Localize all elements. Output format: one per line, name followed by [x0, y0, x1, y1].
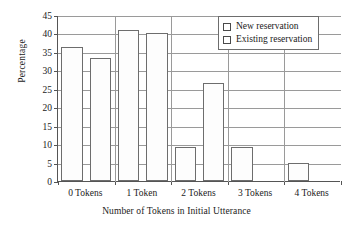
legend-item: New reservation — [223, 20, 312, 33]
group-separator — [115, 16, 116, 182]
y-tick-label: 0 — [47, 177, 52, 187]
y-tick-label: 5 — [47, 159, 52, 169]
y-tick-label: 25 — [43, 85, 53, 95]
bar — [118, 30, 140, 181]
y-tick-label: 30 — [43, 66, 53, 76]
x-axis-title: Number of Tokens in Initial Utterance — [0, 206, 353, 216]
y-tick-mark — [54, 90, 58, 91]
y-tick-label: 40 — [43, 29, 53, 39]
bar-slot — [61, 15, 83, 181]
x-category-label: 1 Token — [127, 188, 158, 198]
y-axis-title: Percentage — [17, 11, 31, 111]
legend-swatch-icon — [223, 36, 231, 44]
bar — [90, 58, 112, 181]
bar — [288, 163, 310, 181]
y-tick-mark — [54, 164, 58, 165]
bar-slot — [118, 15, 140, 181]
bar-slot — [146, 15, 168, 181]
y-tick-mark — [54, 108, 58, 109]
bar-slot — [90, 15, 112, 181]
bar — [61, 47, 83, 181]
y-tick-label: 15 — [43, 122, 53, 132]
y-tick-label: 35 — [43, 48, 53, 58]
y-tick-label: 20 — [43, 103, 53, 113]
legend-swatch-icon — [223, 23, 231, 31]
y-tick-label: 45 — [43, 11, 53, 21]
x-tick-mark — [341, 181, 342, 185]
bar — [146, 33, 168, 181]
y-tick-mark — [54, 34, 58, 35]
legend-item: Existing reservation — [223, 33, 312, 46]
y-tick-mark — [54, 127, 58, 128]
bar — [175, 147, 197, 181]
bar-slot — [175, 15, 197, 181]
group-separator — [171, 16, 172, 182]
y-tick-mark — [54, 53, 58, 54]
y-tick-mark — [54, 71, 58, 72]
x-category-label: 2 Tokens — [181, 188, 215, 198]
legend-label: New reservation — [236, 22, 299, 32]
chart-legend: New reservationExisting reservation — [218, 16, 319, 50]
bar — [203, 83, 225, 181]
y-tick-mark — [54, 16, 58, 17]
bar-chart-figure: Percentage 051015202530354045 0 Tokens1 … — [0, 0, 353, 229]
legend-label: Existing reservation — [236, 35, 312, 45]
x-category-label: 3 Tokens — [238, 188, 272, 198]
y-tick-label: 10 — [43, 140, 53, 150]
x-category-label: 0 Tokens — [68, 188, 102, 198]
y-tick-mark — [54, 145, 58, 146]
bar — [231, 147, 253, 181]
x-tick-mark — [58, 181, 59, 185]
x-category-label: 4 Tokens — [295, 188, 329, 198]
